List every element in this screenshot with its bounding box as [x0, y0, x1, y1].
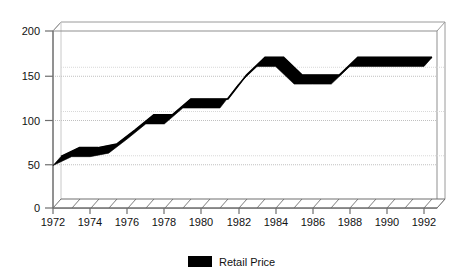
base-slab — [53, 199, 445, 208]
x-tick-label: 1984 — [264, 216, 288, 228]
legend: Retail Price — [188, 256, 275, 268]
y-tick-label: 100 — [22, 115, 40, 127]
x-tick-label: 1976 — [115, 216, 139, 228]
y-tick-label: 150 — [22, 70, 40, 82]
x-tick-label: 1978 — [152, 216, 176, 228]
x-tick-label: 1972 — [41, 216, 65, 228]
x-tick-label: 1980 — [189, 216, 213, 228]
legend-swatch-retail-price — [188, 256, 212, 267]
retail-price-line-chart: 200 150 100 50 0 — [0, 0, 456, 278]
y-tick-label: 50 — [28, 159, 40, 171]
legend-label-retail-price: Retail Price — [219, 256, 275, 268]
x-tick-label: 1982 — [227, 216, 251, 228]
x-tick-label: 1990 — [375, 216, 399, 228]
y-tick-label: 0 — [34, 202, 40, 214]
x-tick-label: 1986 — [301, 216, 325, 228]
chart-container: 200 150 100 50 0 — [0, 0, 456, 278]
x-tick-label: 1988 — [338, 216, 362, 228]
x-tick-label: 1974 — [78, 216, 102, 228]
y-tick-labels: 200 150 100 50 0 — [22, 25, 40, 214]
y-tick-label: 200 — [22, 25, 40, 37]
y-axis — [45, 31, 53, 208]
x-tick-labels: 1972 1974 1976 1978 1980 1982 1984 1986 … — [41, 216, 436, 228]
plot-back-wall — [53, 22, 445, 208]
x-axis — [53, 208, 437, 214]
x-tick-label: 1992 — [412, 216, 436, 228]
